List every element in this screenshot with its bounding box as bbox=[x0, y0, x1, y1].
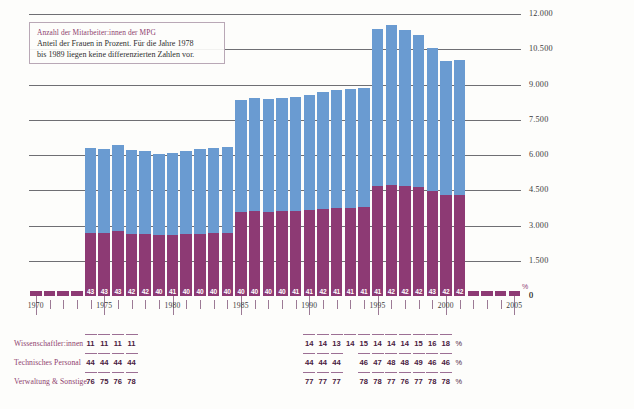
bar-segment-upper bbox=[249, 98, 260, 211]
legend-rule bbox=[317, 334, 329, 335]
legend-rule bbox=[126, 353, 138, 354]
legend-rule bbox=[126, 334, 138, 335]
bar-segment-lower: 41 bbox=[345, 208, 356, 296]
bar-segment-lower: 40 bbox=[153, 235, 164, 296]
bar-column: 41 bbox=[357, 14, 371, 296]
legend-rule bbox=[426, 334, 438, 335]
bar-percent-label: 41 bbox=[167, 288, 178, 295]
bar-segment-lower: 42 bbox=[454, 195, 465, 296]
legend-rule bbox=[85, 372, 97, 373]
bar-segment-lower: 43 bbox=[427, 191, 438, 296]
bar-segment-upper bbox=[290, 97, 301, 211]
bar-segment-upper bbox=[167, 153, 178, 235]
bar-percent-label: 42 bbox=[317, 288, 328, 295]
bar-column bbox=[508, 14, 522, 296]
legend-rule bbox=[98, 334, 110, 335]
legend-row-label: Verwaltung & Sonstige bbox=[14, 377, 87, 386]
bar-segment-upper bbox=[304, 95, 315, 210]
legend-value: 76 bbox=[86, 377, 94, 386]
y-axis-tick-label: 1.500 bbox=[529, 256, 548, 265]
bar-segment-lower: 41 bbox=[304, 210, 315, 296]
x-axis-tick bbox=[214, 300, 215, 309]
legend-value: 49 bbox=[414, 358, 422, 367]
bar-percent-label: 42 bbox=[454, 288, 465, 295]
bar-percent-label: 43 bbox=[85, 288, 96, 295]
legend-value: 44 bbox=[114, 358, 122, 367]
legend-rule bbox=[413, 372, 425, 373]
bar-segment-lower: 40 bbox=[276, 211, 287, 296]
bar-segment-lower: 42 bbox=[399, 186, 410, 296]
caption-line-1: Anteil der Frauen in Prozent. Für die Ja… bbox=[37, 38, 218, 49]
legend-row: Verwaltung & Sonstige7675767877777778787… bbox=[14, 374, 624, 393]
bar-segment-lower: 40 bbox=[208, 233, 219, 296]
bar-percent-label: 41 bbox=[331, 288, 342, 295]
x-axis-year-label: 2000 bbox=[438, 301, 454, 310]
legend-rule bbox=[413, 353, 425, 354]
x-axis-tick bbox=[350, 300, 351, 309]
bar-column: 41 bbox=[289, 14, 303, 296]
legend-rule bbox=[317, 372, 329, 373]
legend-value: 18 bbox=[442, 339, 450, 348]
legend-value: 14 bbox=[305, 339, 313, 348]
bar-segment-upper bbox=[180, 151, 191, 235]
bar-column: 40 bbox=[275, 14, 289, 296]
legend-value: 14 bbox=[346, 339, 354, 348]
x-axis-tick bbox=[159, 300, 160, 309]
x-axis-tick bbox=[337, 300, 338, 309]
legend-rule bbox=[303, 372, 315, 373]
x-axis-tick bbox=[50, 300, 51, 309]
legend-rule bbox=[440, 334, 452, 335]
y-axis-zero-label: 0 bbox=[529, 291, 533, 300]
bar-column: 41 bbox=[371, 14, 385, 296]
bar-percent-label: 40 bbox=[235, 288, 246, 295]
bar-percent-label: 43 bbox=[427, 288, 438, 295]
bar-segment-upper bbox=[85, 148, 96, 233]
bar-percent-label: 42 bbox=[126, 288, 137, 295]
legend-value: 15 bbox=[360, 339, 368, 348]
legend-value: 77 bbox=[305, 377, 313, 386]
bar-segment-upper bbox=[126, 150, 137, 234]
bar-segment-lower: 42 bbox=[139, 234, 150, 296]
legend-rule bbox=[385, 334, 397, 335]
x-axis-year-label: 1980 bbox=[165, 301, 181, 310]
bar-column: 40 bbox=[248, 14, 262, 296]
legend-rule bbox=[344, 334, 356, 335]
bar-segment-upper bbox=[331, 90, 342, 208]
x-axis-tick bbox=[132, 300, 133, 309]
legend-rule bbox=[85, 334, 97, 335]
legend-rule bbox=[85, 353, 97, 354]
legend-value: 77 bbox=[319, 377, 327, 386]
bar-percent-label: 40 bbox=[249, 288, 260, 295]
bar-segment-lower: 41 bbox=[331, 208, 342, 296]
legend-value: 44 bbox=[86, 358, 94, 367]
bar-segment-lower: 41 bbox=[290, 211, 301, 296]
caption-box: Anzahl der Mitarbeiter:innen der MPG Ant… bbox=[29, 22, 225, 64]
y-axis-tick-label: 7.500 bbox=[529, 115, 548, 124]
legend-value: 76 bbox=[401, 377, 409, 386]
x-axis: 19701975198019851990199520002005 bbox=[29, 296, 521, 318]
y-axis-tick-label: 3.000 bbox=[529, 221, 548, 230]
bar-percent-label: 42 bbox=[139, 288, 150, 295]
bar-column: 40 bbox=[234, 14, 248, 296]
bar-column: 43 bbox=[425, 14, 439, 296]
legend-value: 44 bbox=[305, 358, 313, 367]
bar-column: 42 bbox=[384, 14, 398, 296]
bar-segment-upper bbox=[194, 149, 205, 233]
y-axis-tick-label: 12.000 bbox=[529, 9, 553, 18]
legend-value: 11 bbox=[127, 339, 135, 348]
x-axis-tick bbox=[77, 300, 78, 309]
y-axis-tick-label: 9.000 bbox=[529, 80, 548, 89]
bar-segment-lower: 40 bbox=[235, 212, 246, 296]
x-axis-tick bbox=[63, 300, 64, 309]
bar-percent-label: 40 bbox=[222, 288, 233, 295]
y-axis-tick-label: 6.000 bbox=[529, 150, 548, 159]
bar-segment-upper bbox=[153, 154, 164, 236]
x-axis-tick bbox=[460, 300, 461, 309]
legend-rule bbox=[385, 372, 397, 373]
legend-value: 11 bbox=[100, 339, 108, 348]
bar-column: 42 bbox=[412, 14, 426, 296]
x-axis-tick bbox=[186, 300, 187, 309]
legend-value: 77 bbox=[414, 377, 422, 386]
bar-segment-lower: 42 bbox=[386, 185, 397, 296]
x-axis-tick bbox=[282, 300, 283, 309]
